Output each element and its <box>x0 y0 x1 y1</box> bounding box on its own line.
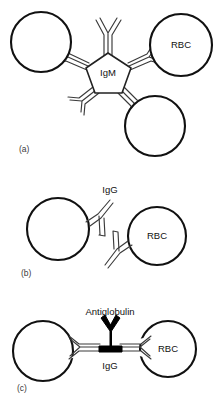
panel-a-label: (a) <box>19 144 30 154</box>
panel-b-label: (b) <box>21 268 32 278</box>
panel-c-rbc-label: RBC <box>158 343 178 354</box>
igm-label: IgM <box>100 67 116 78</box>
panel-c-igg-label: IgG <box>102 360 117 371</box>
panel-b-rbc-label: RBC <box>147 230 167 241</box>
figure-root: IgM RBC (a) IgG RBC (b) <box>0 0 217 402</box>
igm-arm-top-icon <box>96 18 121 58</box>
panel-a-bottom-cell <box>125 96 185 156</box>
panel-c: Antiglobulin RBC IgG (c) <box>13 306 196 394</box>
agglutination-diagram: IgM RBC (a) IgG RBC (b) <box>0 0 217 402</box>
panel-a: IgM RBC (a) <box>11 12 212 156</box>
panel-b: IgG RBC (b) <box>21 184 186 279</box>
panel-b-igg-left-icon <box>86 200 113 236</box>
panel-c-left-cell <box>13 321 73 381</box>
panel-a-left-cell <box>11 12 71 72</box>
panel-b-left-cell <box>27 198 89 260</box>
panel-a-rbc-label: RBC <box>171 39 191 50</box>
antiglobulin-label: Antiglobulin <box>85 306 134 317</box>
antiglobulin-icon <box>99 315 122 352</box>
panel-b-igg-label: IgG <box>102 184 117 195</box>
panel-c-label: (c) <box>17 383 27 393</box>
